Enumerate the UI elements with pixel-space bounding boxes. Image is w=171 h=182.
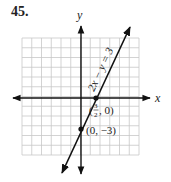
graph: x y 2x − y = 3 ( 3 2 , 0) (0, −3) <box>0 0 171 182</box>
point-y-intercept-label: (0, −3) <box>86 124 116 137</box>
point-x-intercept-label: ( 3 2 , 0) <box>89 102 114 119</box>
svg-text:(: ( <box>89 104 93 117</box>
point-x-intercept <box>93 95 98 100</box>
x-axis-label: x <box>154 91 161 105</box>
point-y-intercept <box>78 126 83 131</box>
y-axis-label: y <box>76 8 83 22</box>
svg-text:2: 2 <box>94 111 98 119</box>
svg-text:3: 3 <box>94 102 98 110</box>
svg-text:, 0): , 0) <box>99 104 114 117</box>
